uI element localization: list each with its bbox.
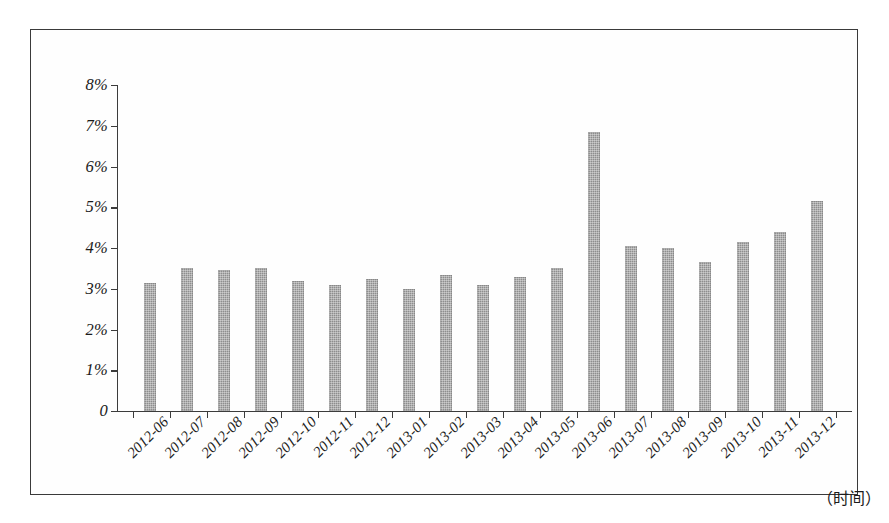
bar [737,242,749,411]
figure-frame: 01%2%3%4%5%6%7%8% 2012-062012-072012-082… [30,29,858,495]
y-axis-tick-label: 2% [86,321,108,338]
plot-area: 01%2%3%4%5%6%7%8% [117,85,852,411]
x-axis-caption: （时间） [817,485,881,509]
bar [329,285,341,411]
x-axis-line [117,411,852,412]
y-axis-tick-label: 7% [86,118,108,135]
y-axis-tick [111,370,117,371]
bar [292,281,304,411]
x-axis-labels: 2012-062012-072012-082012-092012-102012-… [117,414,877,494]
y-axis-tick-label: 1% [86,362,108,379]
bar [514,277,526,411]
bar [662,248,674,411]
y-axis-tick-label: 8% [86,77,108,94]
x-axis-tick-label: 2013-09 [680,414,727,461]
bar [366,279,378,411]
bar [255,268,267,411]
y-axis-tick [111,248,117,249]
y-axis-tick [111,289,117,290]
y-axis-tick-label: 3% [86,281,108,298]
y-axis-tick-label: 6% [86,158,108,175]
bar [440,275,452,412]
bar [181,268,193,411]
bar [477,285,489,411]
y-axis-tick [111,330,117,331]
bar [699,262,711,411]
y-axis-tick-label: 5% [86,199,108,216]
bar [551,268,563,411]
y-axis-line [117,85,118,411]
y-axis-tick [111,126,117,127]
bar [774,232,786,411]
bar [144,283,156,411]
bar [218,270,230,411]
bar [811,201,823,411]
y-axis-tick [111,207,117,208]
y-axis-tick [111,85,117,86]
y-axis-tick [111,411,117,412]
bar [403,289,415,411]
y-axis-tick-label: 0 [100,403,108,420]
x-axis-tick-label: 2013-10 [717,414,764,461]
y-axis-tick [111,167,117,168]
y-axis-tick-label: 4% [86,240,108,257]
bar [625,246,637,411]
bar [588,132,600,411]
